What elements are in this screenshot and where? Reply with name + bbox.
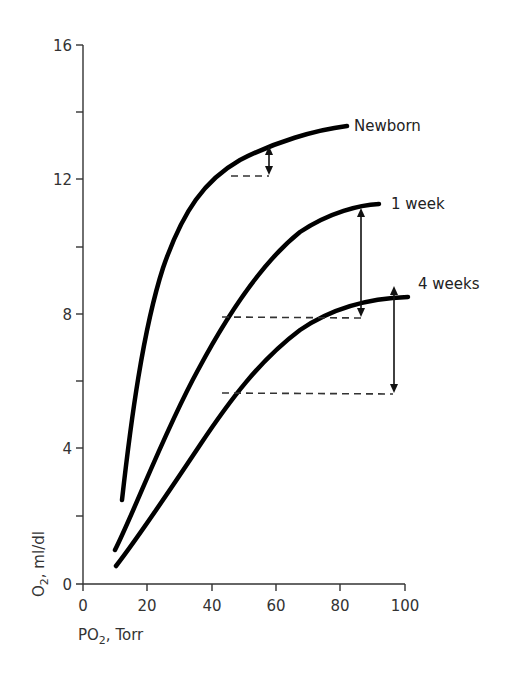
y-tick-label: 4: [62, 440, 72, 458]
arrowhead-down-icon: [265, 166, 273, 175]
arrowhead-down-icon: [357, 308, 365, 317]
x-tick-label: 100: [391, 597, 420, 615]
x-ticks: [83, 584, 405, 591]
curve-newborn: [122, 126, 347, 500]
x-tick-label: 40: [202, 597, 221, 615]
y-tick-label: 12: [53, 171, 72, 189]
y-tick-label: 0: [62, 576, 72, 594]
y-tick-label: 8: [62, 306, 72, 324]
series-label-4-weeks: 4 weeks: [418, 275, 480, 293]
x-axis-title: PO2, Torr: [78, 626, 144, 647]
y-tick-label: 16: [53, 37, 72, 55]
oxygen-dissociation-chart: 16 12 8 4 0 0 20 40 60 80 100 PO2, Torr …: [0, 0, 517, 676]
y-axis-title: O2, ml/dl: [30, 531, 51, 597]
annotations: [222, 146, 398, 394]
x-tick-label: 60: [266, 597, 285, 615]
series-label-1-week: 1 week: [391, 195, 445, 213]
curve-1-week: [115, 204, 379, 550]
x-tick-label: 20: [137, 597, 156, 615]
curves: [115, 126, 408, 566]
curve-4-weeks: [116, 297, 408, 566]
arrowhead-down-icon: [390, 384, 398, 393]
x-tick-label: 80: [330, 597, 349, 615]
y-ticks: [76, 45, 83, 516]
arrowhead-up-icon: [357, 208, 365, 217]
arrowhead-up-icon: [390, 286, 398, 295]
dashed-line-4-weeks: [222, 393, 393, 394]
dashed-line-1-week: [222, 317, 361, 318]
x-tick-label: 0: [78, 597, 88, 615]
series-label-newborn: Newborn: [354, 117, 421, 135]
